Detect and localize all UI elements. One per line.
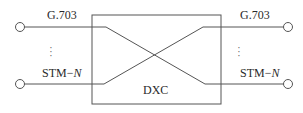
cross-connect-line-1 [106,27,205,84]
left-top-label: G.703 [47,9,77,21]
left-bottom-label-var: N [73,66,81,80]
left-bottom-label-prefix: STM− [42,66,73,80]
right-bottom-label-var: N [271,66,279,80]
right-top-port-icon [284,23,293,32]
right-top-label: G.703 [240,9,270,21]
dxc-diagram: G.703 ··· STM−N G.703 ··· STM−N DXC [0,0,303,113]
cross-connect-line-2 [104,27,203,84]
right-bottom-port-icon [284,80,293,89]
right-bottom-label-prefix: STM− [240,66,271,80]
right-ellipsis: ··· [236,46,242,58]
left-bottom-port-icon [16,80,25,89]
left-top-port-icon [16,23,25,32]
left-ellipsis: ··· [48,46,54,58]
dxc-label: DXC [143,84,168,96]
left-bottom-label: STM−N [42,67,81,79]
right-bottom-label: STM−N [240,67,279,79]
